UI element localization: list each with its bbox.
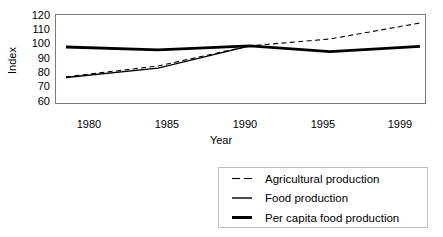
y-tick-label-70: 70 bbox=[38, 80, 50, 92]
legend-item-agricultural-production[interactable]: Agricultural production bbox=[232, 173, 379, 185]
legend-label-food-production: Food production bbox=[265, 192, 348, 204]
y-tick-label-90: 90 bbox=[38, 52, 50, 64]
legend-label-per-capita-food-production: Per capita food production bbox=[265, 212, 399, 224]
x-tick-label-1995: 1995 bbox=[311, 118, 335, 130]
x-tick-label-1990: 1990 bbox=[233, 118, 257, 130]
legend-item-per-capita-food-production[interactable]: Per capita food production bbox=[232, 212, 399, 224]
plot-area-frame bbox=[56, 15, 426, 104]
line-chart: 120 110 100 90 80 70 60 Index 1980 1985 … bbox=[0, 0, 443, 237]
x-tick-label-1985: 1985 bbox=[155, 118, 179, 130]
legend-label-agricultural-production: Agricultural production bbox=[265, 173, 379, 185]
series-line-per-capita-food-production bbox=[66, 46, 420, 52]
x-axis-title: Year bbox=[210, 134, 233, 146]
y-tick-label-110: 110 bbox=[32, 23, 50, 35]
x-tick-label-1999: 1999 bbox=[388, 118, 412, 130]
y-tick-label-100: 100 bbox=[32, 37, 50, 49]
y-tick-label-60: 60 bbox=[38, 95, 50, 107]
x-tick-label-1980: 1980 bbox=[77, 118, 101, 130]
legend-item-food-production[interactable]: Food production bbox=[232, 192, 348, 204]
chart-canvas: 120 110 100 90 80 70 60 Index 1980 1985 … bbox=[0, 0, 443, 237]
y-tick-label-80: 80 bbox=[38, 66, 50, 78]
y-tick-label-120: 120 bbox=[32, 9, 50, 21]
y-axis-title: Index bbox=[6, 47, 18, 74]
